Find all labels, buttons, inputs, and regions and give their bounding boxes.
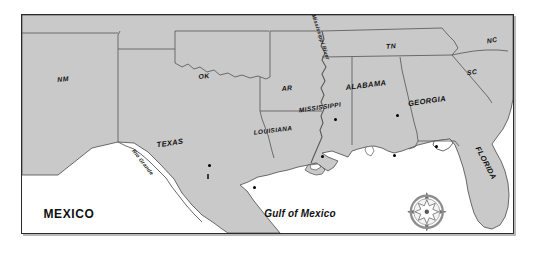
marker-al-coast: [393, 154, 396, 157]
marker-ga-southeast: [435, 145, 438, 148]
marker-la-south: [321, 155, 324, 158]
compass-rose: [406, 191, 448, 233]
marker-tx-central: [208, 164, 211, 167]
tick-tx-interior: [207, 174, 209, 179]
marker-ms-central: [334, 118, 337, 121]
map-frame: NMOKTEXASARLOUISIANAMISSISSIPPIALABAMAGE…: [21, 14, 514, 234]
compass-hub: [425, 210, 429, 214]
map-container: NMOKTEXASARLOUISIANAMISSISSIPPIALABAMAGE…: [0, 0, 533, 260]
marker-tx-coast: [253, 186, 256, 189]
marker-al-central: [396, 114, 399, 117]
compass-rose-holder: [406, 191, 448, 234]
